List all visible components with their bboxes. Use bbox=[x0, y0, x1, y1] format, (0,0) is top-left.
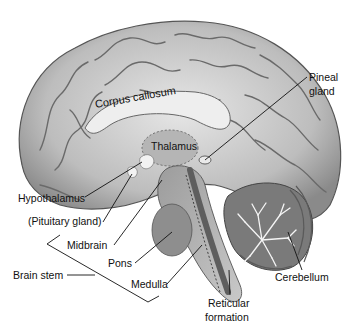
cerebellum bbox=[224, 183, 313, 270]
label-hypothalamus: Hypothalamus bbox=[18, 192, 85, 204]
label-pons: Pons bbox=[108, 257, 132, 269]
label-pituitary-gland: (Pituitary gland) bbox=[28, 215, 102, 227]
label-pineal-gland-line2: gland bbox=[309, 85, 335, 97]
pons bbox=[152, 204, 192, 256]
label-pineal-gland-line1: Pineal bbox=[309, 71, 338, 83]
label-reticular-formation-line1: Reticular bbox=[208, 297, 249, 309]
label-medulla: Medulla bbox=[131, 278, 168, 290]
brain-illustration bbox=[0, 0, 350, 334]
label-thalamus: Thalamus bbox=[151, 140, 197, 152]
label-brain-stem: Brain stem bbox=[13, 269, 63, 281]
label-cerebellum: Cerebellum bbox=[275, 271, 329, 283]
label-midbrain: Midbrain bbox=[67, 239, 107, 251]
label-reticular-formation-line2: formation bbox=[205, 311, 249, 323]
